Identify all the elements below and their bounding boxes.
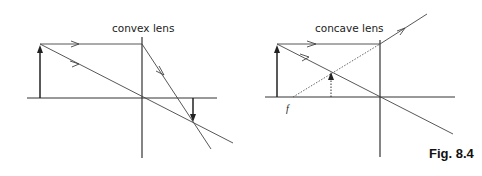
- virtual-image-arrow-icon: [328, 72, 334, 97]
- object-arrow-icon: [37, 45, 43, 98]
- focal-point-label: f: [286, 103, 290, 114]
- figure-caption: Fig. 8.4: [429, 146, 475, 161]
- central-ray: [40, 44, 233, 143]
- ray-direction-icon: [397, 28, 405, 35]
- lens-diagram: convex lens concave lens: [0, 0, 482, 176]
- focal-construction-line: [293, 44, 380, 97]
- concave-lens-label: concave lens: [315, 22, 384, 34]
- object-arrow-icon: [274, 45, 280, 97]
- central-ray: [277, 44, 453, 134]
- convex-lens-panel: convex lens: [27, 22, 233, 158]
- concave-lens-panel: concave lens f: [265, 14, 455, 157]
- convex-lens-label: convex lens: [112, 22, 174, 34]
